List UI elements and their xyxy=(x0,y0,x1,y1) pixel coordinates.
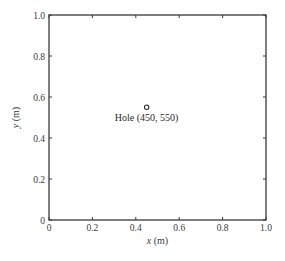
x-tick-label: 1.0 xyxy=(260,223,272,233)
x-tick-label: 0.4 xyxy=(130,223,142,233)
y-axis-label: y (m) xyxy=(10,107,22,129)
y-tick-label: 0.8 xyxy=(33,52,45,62)
x-tick-label: 0 xyxy=(47,223,52,233)
x-axis-label: x (m) xyxy=(146,235,168,247)
x-tick-label: 0.6 xyxy=(173,223,185,233)
y-tick-label: 0.4 xyxy=(33,134,45,144)
y-tick-label: 1.0 xyxy=(33,11,45,21)
y-tick-label: 0.6 xyxy=(33,93,45,103)
chart-svg: 00.20.40.60.81.000.20.40.60.81.0x (m)y (… xyxy=(0,0,285,261)
x-tick-label: 0.8 xyxy=(217,223,229,233)
x-axis-unit: (m) xyxy=(151,235,168,247)
hole-annotation: Hole (450, 550) xyxy=(115,112,179,124)
x-tick-label: 0.2 xyxy=(86,223,98,233)
y-tick-label: 0.2 xyxy=(33,175,45,185)
plot-area: 00.20.40.60.81.000.20.40.60.81.0x (m)y (… xyxy=(10,11,272,248)
hole-marker xyxy=(144,105,148,109)
y-tick-label: 0 xyxy=(40,216,45,226)
y-axis-unit: (m) xyxy=(10,107,22,124)
